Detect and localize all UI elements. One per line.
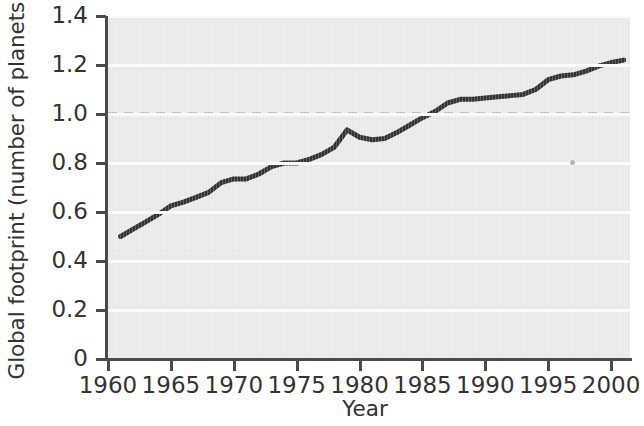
y-axis-tick — [96, 260, 106, 263]
data-layer — [108, 16, 630, 359]
gridline — [108, 260, 630, 263]
y-axis-tick-label: 0.8 — [26, 151, 88, 174]
y-axis-tick — [96, 15, 106, 18]
x-axis-tick — [547, 360, 550, 371]
x-axis-tick — [610, 360, 613, 371]
gridline — [108, 113, 630, 116]
y-axis-tick-label: 0.2 — [26, 298, 88, 321]
y-axis-tick — [96, 162, 106, 165]
y-axis-tick — [96, 64, 106, 67]
x-axis-title: Year — [108, 396, 622, 421]
y-axis-tick — [96, 211, 106, 214]
y-axis-tick-label: 0.4 — [26, 249, 88, 272]
y-axis-tick-label: 0 — [26, 347, 88, 370]
x-axis-tick — [359, 360, 362, 371]
y-axis-tick-label: 1.4 — [26, 4, 88, 27]
gridline — [108, 309, 630, 312]
x-axis-tick — [170, 360, 173, 371]
x-axis-tick — [484, 360, 487, 371]
gridline — [108, 162, 630, 165]
x-axis-tick — [107, 360, 110, 371]
gridline — [108, 16, 630, 18]
y-axis-tick — [96, 358, 106, 361]
plot-area — [108, 16, 630, 359]
x-axis-tick — [233, 360, 236, 371]
y-axis-tick-label: 1.0 — [26, 102, 88, 125]
x-axis-line — [105, 358, 632, 361]
x-axis-tick — [296, 360, 299, 371]
y-axis-tick — [96, 309, 106, 312]
x-axis-tick-label: 2000 — [571, 374, 644, 397]
y-axis-tick-label: 0.6 — [26, 200, 88, 223]
x-axis-tick — [421, 360, 424, 371]
y-axis-tick — [96, 113, 106, 116]
gridline — [108, 64, 630, 67]
y-axis-tick-label: 1.2 — [26, 53, 88, 76]
scan-speck-icon — [570, 160, 575, 165]
gridline — [108, 211, 630, 214]
